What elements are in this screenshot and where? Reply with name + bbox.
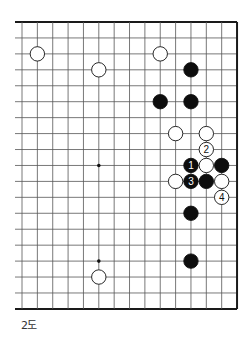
white-stone — [214, 174, 228, 188]
numbered-white-stone: 4 — [214, 190, 228, 204]
go-board: 2134 — [0, 0, 251, 339]
white-stone — [92, 63, 106, 77]
diagram-caption: 2도 — [21, 316, 37, 332]
white-stone — [92, 270, 106, 284]
stone-move-number: 1 — [188, 160, 194, 171]
white-stone — [199, 158, 213, 172]
black-stone — [184, 206, 198, 220]
black-stone — [199, 174, 213, 188]
numbered-white-stone: 2 — [199, 142, 213, 156]
star-point — [97, 259, 101, 263]
white-stone — [168, 174, 182, 188]
white-stone — [30, 47, 44, 61]
black-stone — [184, 63, 198, 77]
numbered-black-stone: 1 — [184, 158, 198, 172]
white-stone — [199, 126, 213, 140]
black-stone — [153, 95, 167, 109]
black-stone — [214, 158, 228, 172]
black-stone — [184, 254, 198, 268]
stone-move-number: 2 — [204, 144, 210, 155]
white-stone — [168, 126, 182, 140]
stone-move-number: 4 — [219, 192, 225, 203]
numbered-black-stone: 3 — [184, 174, 198, 188]
white-stone — [153, 47, 167, 61]
black-stone — [184, 95, 198, 109]
star-point — [97, 164, 101, 168]
stone-move-number: 3 — [188, 176, 194, 187]
